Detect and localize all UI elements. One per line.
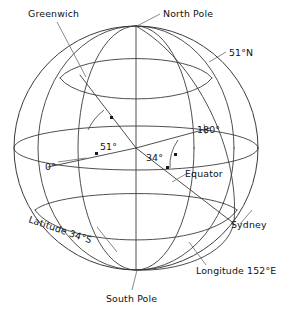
meridian-sydney <box>136 26 235 270</box>
angle-tick-51-upper <box>110 116 113 119</box>
label-north-pole: North Pole <box>163 8 213 19</box>
label-prime-meridian: 0° <box>45 161 56 172</box>
label-sydney: Sydney <box>231 219 267 230</box>
radius-equator-prime <box>48 148 136 167</box>
label-51n: 51°N <box>229 47 253 58</box>
label-180: 180° <box>197 124 220 135</box>
leader-51n <box>209 52 226 62</box>
radius-to-greenwich <box>80 75 136 148</box>
angle-tick-34-upper <box>174 153 177 156</box>
label-equator: Equator <box>185 168 223 179</box>
label-angle-51: 51° <box>100 141 117 152</box>
label-latitude-34s: Latitude 34°S <box>27 213 93 245</box>
label-south-pole: South Pole <box>106 293 157 304</box>
label-longitude-152e: Longitude 152°E <box>196 265 276 276</box>
label-greenwich: Greenwich <box>28 8 79 19</box>
angle-tick-51-lower <box>95 152 98 155</box>
label-angle-34: 34° <box>146 152 163 163</box>
angle-tick-34-lower <box>166 166 169 169</box>
globe-svg: Greenwich North Pole 51°N 180° 0° Equato… <box>0 0 289 313</box>
leader-north-pole <box>137 14 160 26</box>
leader-south-pole <box>132 270 137 290</box>
globe-diagram: Greenwich North Pole 51°N 180° 0° Equato… <box>0 0 289 313</box>
